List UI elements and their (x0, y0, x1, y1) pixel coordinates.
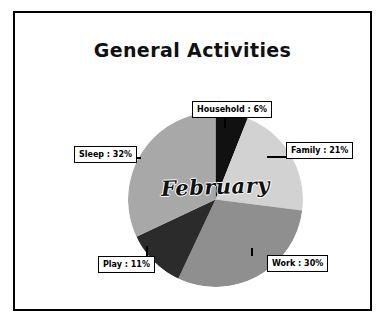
chart-frame: General Activities February (13, 11, 372, 311)
pie-label-work: Work : 30% (267, 255, 328, 272)
pie-label-family: Family : 21% (286, 142, 353, 159)
pie-label-household: Household : 6% (192, 101, 272, 118)
pie-label-sleep: Sleep : 32% (74, 146, 137, 163)
pie-label-play: Play : 11% (98, 256, 155, 273)
page-title: General Activities (15, 39, 370, 61)
leader-line-family (267, 156, 286, 158)
chart-page: General Activities February (0, 0, 386, 324)
leader-line-work (251, 248, 253, 256)
